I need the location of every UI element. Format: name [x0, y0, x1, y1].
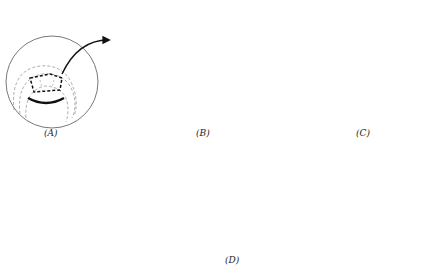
panel-a [6, 36, 108, 128]
diagram-canvas [0, 0, 444, 273]
panel-label-c: (C) [356, 128, 370, 138]
panel-label-d: (D) [225, 255, 239, 265]
panel-label-a: (A) [44, 128, 58, 138]
panel-label-b: (B) [196, 128, 210, 138]
donor-embryo-outline [6, 36, 98, 128]
